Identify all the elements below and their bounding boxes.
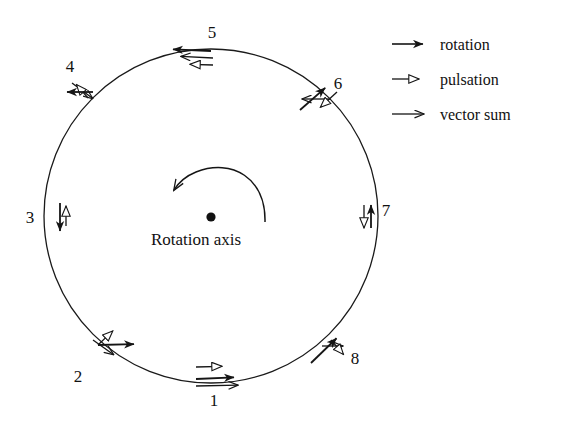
legend-item-vector-sum: vector sum [392,106,511,123]
point-number-label-7: 7 [382,201,391,220]
legend-item-pulsation: pulsation [392,71,499,89]
legend-item-rotation: rotation [392,36,490,53]
vector-sum-arrow-1 [196,385,238,386]
figure-root: Rotation axis 12345678 rotationpulsation… [0,0,561,430]
rotation-axis-label: Rotation axis [151,230,241,249]
rotation-arrow-8 [311,338,337,363]
rotation-arrow-1 [196,377,234,379]
point-number-label-2: 2 [74,367,83,386]
vector-point-1: 1 [196,366,238,410]
legend-label-vector-sum: vector sum [440,106,511,123]
point-number-label-8: 8 [351,349,360,368]
vector-sum-arrow-5 [181,56,213,58]
point-number-label-6: 6 [334,74,343,93]
legend-label-pulsation: pulsation [440,71,499,89]
rotation-pulsation-diagram: Rotation axis 12345678 rotationpulsation… [0,0,561,430]
rotation-axis-dot [206,212,215,221]
rotation-arrow-2 [98,344,134,345]
point-number-label-1: 1 [210,391,219,410]
point-number-label-5: 5 [208,23,217,42]
pulsation-arrow-2 [98,331,113,345]
vector-point-8: 8 [311,338,359,368]
point-number-label-4: 4 [66,57,75,76]
vector-point-4: 4 [66,57,93,99]
legend: rotationpulsationvector sum [392,36,511,123]
point-number-label-3: 3 [26,208,35,227]
pulsation-arrow-5 [190,64,213,65]
vector-point-5: 5 [173,23,216,65]
vector-point-3: 3 [26,203,66,231]
pulsation-arrow-1 [196,366,222,367]
vector-sum-arrow-2 [93,340,114,355]
legend-label-rotation: rotation [440,36,490,53]
counterclockwise-rotation-arc-icon [174,168,265,222]
